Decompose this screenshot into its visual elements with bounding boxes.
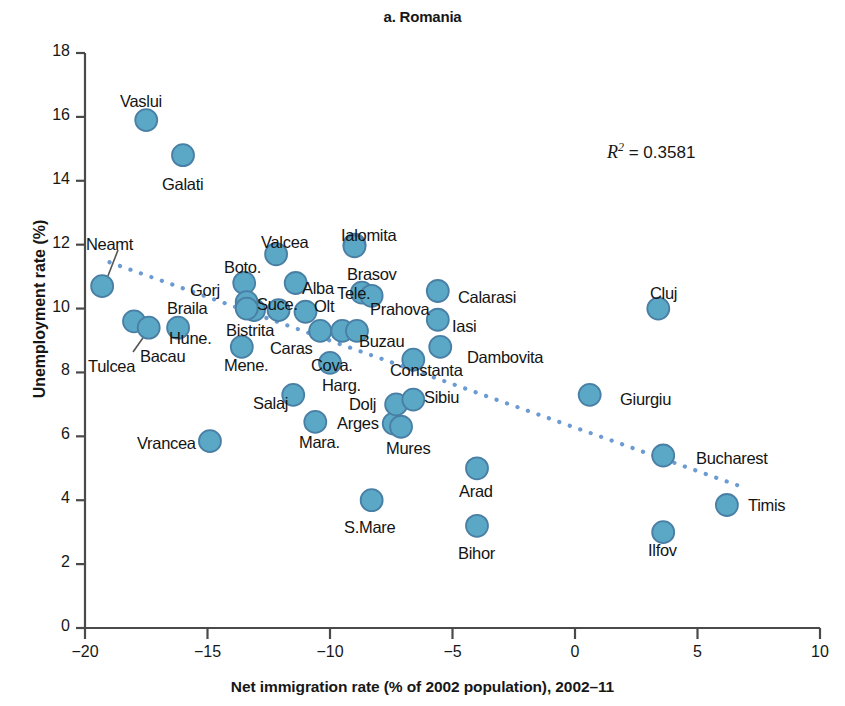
point-label-prahova: Prahova [370, 300, 429, 319]
data-point-bistrita[interactable] [236, 298, 258, 320]
data-point-timis[interactable] [716, 494, 738, 516]
point-label-dolj: Dolj [349, 395, 376, 414]
point-label-alba: Alba [302, 279, 334, 298]
data-point-bucharest[interactable] [652, 445, 674, 467]
y-tick-label-12: 12 [36, 234, 70, 252]
y-tick-label-6: 6 [36, 425, 70, 443]
point-label-mara: Mara. [299, 433, 340, 452]
x-tick-label--10: −10 [300, 643, 360, 661]
point-label-mene: Mene. [224, 356, 268, 375]
y-axis-ticks [76, 53, 85, 628]
point-label-boto: Boto. [224, 258, 261, 277]
x-tick-label--5: −5 [423, 643, 483, 661]
point-label-arad: Arad [459, 482, 493, 501]
point-label-dambovita: Dambovita [467, 348, 543, 367]
point-label-timis: Timis [748, 496, 785, 515]
point-label-galati: Galati [162, 175, 203, 194]
data-point-mara[interactable] [304, 411, 326, 433]
data-point-ilfov[interactable] [652, 521, 674, 543]
point-label-constanta: Constanta [390, 361, 463, 380]
data-point-galati[interactable] [172, 144, 194, 166]
data-point-arad[interactable] [466, 457, 488, 479]
x-tick-label-0: 0 [545, 643, 605, 661]
point-label-suce: Suce. [257, 295, 298, 314]
data-point-calarasi[interactable] [427, 280, 449, 302]
point-label-s-mare: S.Mare [344, 518, 395, 537]
point-label-ilfov: Ilfov [648, 541, 677, 560]
point-label-bistrita: Bistrita [226, 321, 274, 340]
point-label-arges: Arges [337, 414, 379, 433]
point-label-tulcea: Tulcea [88, 357, 135, 376]
y-tick-label-2: 2 [36, 553, 70, 571]
point-label-buzau: Buzau [359, 332, 404, 351]
point-label-harg: Harg. [322, 376, 361, 395]
data-point-iasi[interactable] [427, 309, 449, 331]
x-tick-label-5: 5 [668, 643, 728, 661]
data-point-vrancea[interactable] [199, 430, 221, 452]
x-tick-label-10: 10 [790, 643, 845, 661]
point-label-brasov: Brasov [347, 265, 397, 284]
data-point-bihor[interactable] [466, 515, 488, 537]
point-label-cluj: Cluj [650, 284, 677, 303]
data-point-dambovita[interactable] [429, 336, 451, 358]
x-tick-label--15: −15 [178, 643, 238, 661]
point-label-valcea: Valcea [261, 233, 308, 252]
data-point-sibiu[interactable] [402, 389, 424, 411]
data-point-neamt[interactable] [91, 275, 113, 297]
point-label-braila: Braila [167, 299, 207, 318]
point-label-giurgiu: Giurgiu [620, 390, 671, 409]
point-label-bihor: Bihor [458, 544, 495, 563]
point-label-sibiu: Sibiu [424, 388, 459, 407]
data-point-giurgiu[interactable] [579, 384, 601, 406]
x-axis-ticks [85, 628, 820, 639]
point-label-hune: Hune. [169, 329, 212, 348]
point-label-olt: Olt [314, 297, 334, 316]
y-tick-label-10: 10 [36, 298, 70, 316]
point-label-tele: Tele. [337, 284, 370, 303]
y-tick-label-4: 4 [36, 489, 70, 507]
point-label-salaj: Salaj [253, 394, 288, 413]
point-label-vrancea: Vrancea [137, 434, 196, 453]
data-point-vaslui[interactable] [135, 109, 157, 131]
scatter-plot-figure: a. Romania R2 = 0.3581 Unemployment rate… [0, 0, 845, 706]
point-label-vaslui: Vaslui [120, 92, 162, 111]
data-point-s-mare[interactable] [361, 489, 383, 511]
data-point-bacau[interactable] [138, 317, 160, 339]
point-label-iasi: Iasi [452, 317, 476, 336]
y-tick-label-0: 0 [36, 617, 70, 635]
data-point-mures[interactable] [390, 416, 412, 438]
y-tick-label-16: 16 [36, 106, 70, 124]
point-label-ialomita: Ialomita [341, 226, 396, 245]
point-label-bacau: Bacau [140, 347, 185, 366]
point-label-neamt: Neamt [86, 235, 133, 254]
point-label-bucharest: Bucharest [696, 449, 768, 468]
y-tick-label-14: 14 [36, 170, 70, 188]
point-label-caras: Caras [270, 339, 313, 358]
y-tick-label-18: 18 [36, 42, 70, 60]
point-label-gorj: Gorj [190, 281, 220, 300]
point-label-calarasi: Calarasi [458, 288, 516, 307]
y-tick-label-8: 8 [36, 361, 70, 379]
x-tick-label--20: −20 [55, 643, 115, 661]
point-label-mures: Mures [386, 439, 430, 458]
point-label-cova: Cova. [311, 356, 353, 375]
